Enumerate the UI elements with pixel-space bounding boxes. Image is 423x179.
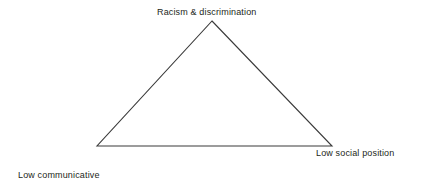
bottom-right-label: Low social position [316,148,394,159]
triangle-diagram-figure: Racism & discrimination Low communicativ… [0,0,423,179]
triangle-outline [97,21,332,146]
apex-label: Racism & discrimination [157,7,256,18]
bottom-left-label-line-1: Low communicative [18,170,100,179]
bottom-left-label: Low communicative power [18,148,100,179]
